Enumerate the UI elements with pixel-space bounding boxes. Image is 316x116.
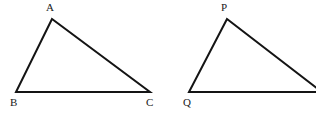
vertex-label-p: P [221, 2, 227, 13]
vertex-label-q: Q [183, 97, 191, 108]
vertex-label-b: B [10, 97, 17, 108]
vertex-label-a: A [46, 2, 54, 13]
figure-background [0, 0, 316, 116]
geometry-figure: A B C P Q [0, 0, 316, 116]
vertex-label-c: C [146, 97, 153, 108]
triangles-drawing [0, 0, 316, 116]
